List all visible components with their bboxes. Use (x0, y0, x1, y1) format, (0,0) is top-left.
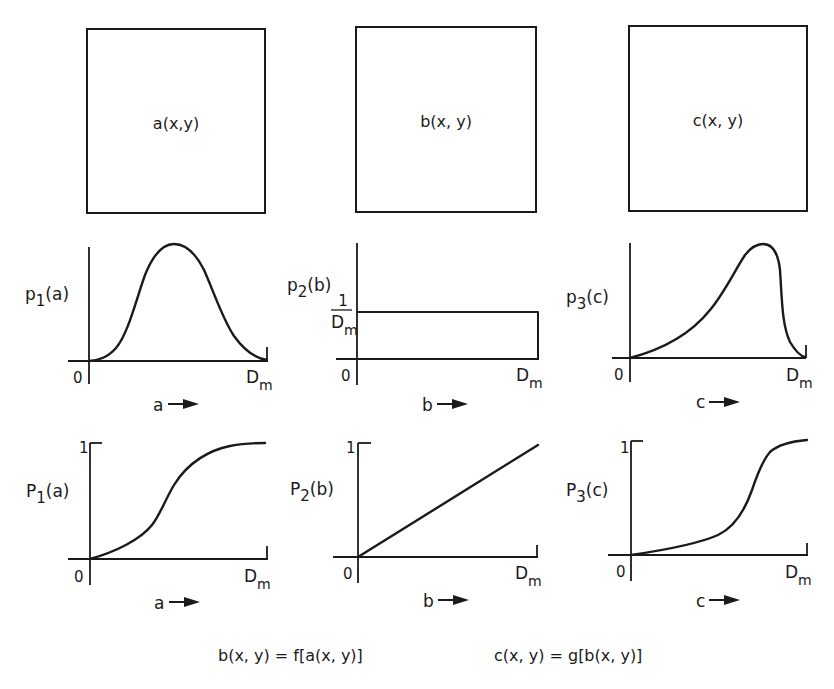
cdf-curve-a (90, 443, 265, 559)
pdf-curve-c (630, 244, 805, 358)
x-var-label: c (696, 392, 705, 412)
top-label: 1 (79, 439, 89, 457)
svg-text:1: 1 (338, 292, 348, 310)
dm-label: Dm (246, 367, 273, 393)
image-a: a(x,y) (87, 29, 265, 213)
cdf-line-b (358, 445, 538, 557)
pdf-a-ylabel: p1(a) (25, 284, 69, 310)
pdf-uniform-b (357, 312, 538, 359)
pdf-plot-a: p1(a) 0 Dm a (25, 244, 273, 415)
arrow-right-icon (168, 399, 199, 409)
image-b-label: b(x, y) (420, 112, 472, 131)
level-label: 1 Dm (331, 292, 358, 338)
equation-left: b(x, y) = f[a(x, y)] (218, 646, 363, 665)
image-c: c(x, y) (629, 26, 807, 211)
cdf-plot-c: 1 P3(c) 0 Dm c (566, 439, 812, 611)
arrow-right-icon (709, 397, 740, 407)
cdf-plot-b: 1 P2(b) 0 Dm b (290, 439, 542, 611)
pdf-b-ylabel: p2(b) (287, 275, 331, 301)
cdf-plot-a: 1 P1(a) 0 Dm a (26, 439, 271, 613)
x-var-label: b (423, 591, 434, 611)
x-var-label: b (422, 395, 433, 415)
top-label: 1 (620, 439, 630, 457)
arrow-right-icon (169, 597, 200, 607)
cdf-a-ylabel: P1(a) (26, 481, 70, 507)
dm-label: Dm (515, 563, 542, 589)
pdf-plot-c: p3(c) 0 Dm c (566, 243, 813, 412)
arrow-right-icon (709, 595, 740, 605)
origin-label: 0 (341, 367, 351, 385)
x-var-label: a (153, 395, 163, 415)
origin-label: 0 (616, 563, 626, 581)
equation-right: c(x, y) = g[b(x, y)] (494, 646, 642, 665)
cdf-curve-c (631, 440, 807, 555)
origin-label: 0 (73, 369, 83, 387)
arrow-right-icon (438, 595, 469, 605)
image-c-label: c(x, y) (693, 111, 743, 130)
dm-label: Dm (785, 562, 812, 588)
dm-label: Dm (786, 365, 813, 391)
x-var-label: c (696, 591, 705, 611)
origin-label: 0 (74, 568, 84, 586)
image-b: b(x, y) (356, 27, 536, 212)
arrow-right-icon (437, 399, 468, 409)
dm-label: Dm (516, 365, 543, 391)
pdf-curve-a (89, 244, 267, 361)
origin-label: 0 (614, 366, 624, 384)
origin-label: 0 (343, 565, 353, 583)
image-a-label: a(x,y) (153, 114, 199, 133)
diagram-canvas: a(x,y) b(x, y) c(x, y) p1(a) 0 Dm a p2(b… (0, 0, 834, 689)
cdf-b-ylabel: P2(b) (290, 479, 334, 505)
x-var-label: a (154, 593, 164, 613)
top-label: 1 (346, 439, 356, 457)
svg-text:Dm: Dm (331, 312, 358, 338)
pdf-c-ylabel: p3(c) (566, 287, 609, 313)
cdf-c-ylabel: P3(c) (566, 480, 608, 506)
dm-label: Dm (244, 566, 271, 592)
pdf-plot-b: p2(b) 1 Dm 0 Dm b (287, 243, 543, 415)
